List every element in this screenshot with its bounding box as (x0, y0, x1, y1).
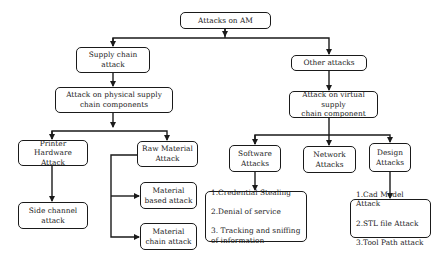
node-other-attacks: Other attacks (291, 55, 367, 71)
design-attack-item: 1.Cad Model Attack (356, 190, 425, 209)
software-attack-item: 1.Credential Stealing (211, 188, 301, 198)
node-side-channel-attack: Side channel attack (18, 202, 88, 229)
node-material-based-attack: Material based attack (140, 182, 197, 209)
node-network-attacks: Network Attacks (303, 146, 356, 173)
node-design-attack-list: 1.Cad Model Attack 2.STL file Attack 3.T… (350, 199, 431, 238)
design-attack-item: 3.Tool Path attack (356, 238, 425, 248)
software-attack-item: 3. Tracking and sniffing of information (211, 226, 301, 245)
node-software-attack-list: 1.Credential Stealing 2.Denial of servic… (205, 191, 307, 242)
node-supply-chain-attack: Supply chain attack (76, 47, 150, 73)
node-physical-supply-chain: Attack on physical supply chain componen… (55, 87, 173, 113)
node-raw-material-attack: Raw Material Attack (137, 141, 198, 167)
node-virtual-supply-chain: Attack on virtual supply chain component (289, 91, 378, 118)
software-attack-items: 1.Credential Stealing 2.Denial of servic… (211, 178, 301, 255)
software-attack-item: 2.Denial of service (211, 207, 301, 217)
design-attack-items: 1.Cad Model Attack 2.STL file Attack 3.T… (356, 180, 425, 257)
node-software-attacks: Software Attacks (229, 145, 281, 172)
node-attacks-on-am: Attacks on AM (180, 12, 271, 29)
node-printer-hardware-attack: Printer Hardware Attack (18, 140, 88, 166)
node-design-attacks: Design Attacks (369, 143, 411, 172)
design-attack-item: 2.STL file Attack (356, 219, 425, 229)
node-material-chain-attack: Material chain attack (140, 223, 197, 250)
